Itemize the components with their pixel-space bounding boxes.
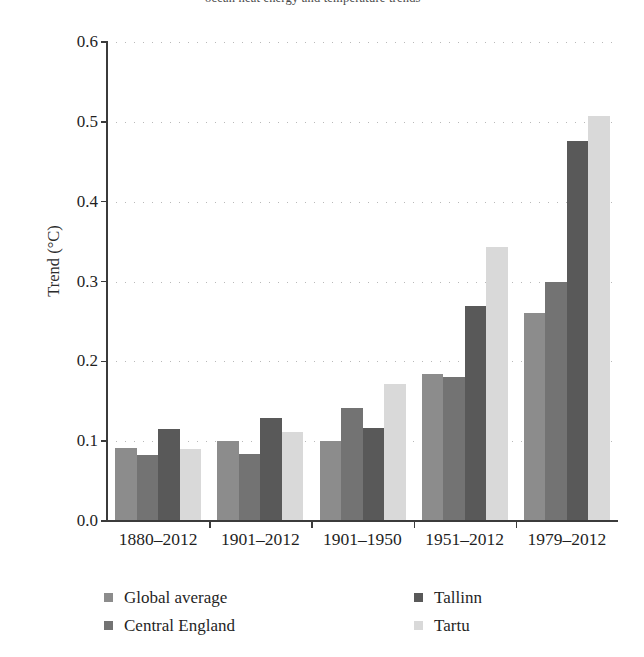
- bar-chart-figure: Trend (°C) 0.00.10.20.30.40.50.6 1880–20…: [0, 0, 644, 657]
- legend-item-global-average[interactable]: Global average: [104, 589, 227, 606]
- bar-tartu-1901–1950: [384, 384, 406, 521]
- bar-tallinn-1901–1950: [363, 428, 385, 521]
- legend-item-central-england[interactable]: Central England: [104, 617, 235, 634]
- legend-label: Tartu: [434, 617, 470, 634]
- bar-tallinn-1951–2012: [465, 306, 487, 521]
- y-axis-title: Trend (°C): [44, 161, 64, 361]
- y-tick-label: 0.1: [77, 431, 98, 451]
- bar-central-england-1880–2012: [137, 455, 159, 521]
- bar-global-average-1880–2012: [115, 448, 137, 521]
- legend-swatch-icon: [414, 621, 423, 630]
- legend-swatch-icon: [104, 621, 113, 630]
- bar-tartu-1979–2012: [588, 116, 610, 521]
- legend-item-tartu[interactable]: Tartu: [414, 617, 470, 634]
- legend-label: Tallinn: [434, 589, 482, 606]
- x-axis-label-1951–2012: 1951–2012: [414, 529, 516, 550]
- bars-layer: [107, 42, 618, 521]
- bar-global-average-1951–2012: [422, 374, 444, 521]
- x-axis-label-1901–1950: 1901–1950: [311, 529, 413, 550]
- y-tick-label: 0.2: [77, 351, 98, 371]
- chart-legend: Global averageCentral EnglandTallinnTart…: [104, 589, 534, 645]
- x-tick-mark: [209, 521, 210, 528]
- legend-item-tallinn[interactable]: Tallinn: [414, 589, 482, 606]
- y-tick-label: 0.4: [77, 192, 98, 212]
- bar-global-average-1901–1950: [320, 441, 342, 521]
- bar-central-england-1979–2012: [545, 282, 567, 521]
- x-axis-label-1901–2012: 1901–2012: [209, 529, 311, 550]
- x-axis-line: [106, 520, 618, 522]
- legend-swatch-icon: [104, 593, 113, 602]
- bar-central-england-1901–1950: [341, 408, 363, 521]
- bar-tallinn-1880–2012: [158, 429, 180, 521]
- x-tick-mark: [414, 521, 415, 528]
- legend-label: Central England: [124, 617, 235, 634]
- x-tick-mark: [516, 521, 517, 528]
- plot-area: 0.00.10.20.30.40.50.6: [107, 42, 618, 521]
- x-tick-mark: [311, 521, 312, 528]
- bar-global-average-1979–2012: [524, 313, 546, 521]
- x-axis-label-1880–2012: 1880–2012: [107, 529, 209, 550]
- bar-tallinn-1979–2012: [567, 141, 589, 521]
- bar-tartu-1951–2012: [486, 247, 508, 521]
- y-tick-label: 0.6: [77, 32, 98, 52]
- bar-tallinn-1901–2012: [260, 418, 282, 521]
- bar-central-england-1901–2012: [239, 454, 261, 521]
- legend-swatch-icon: [414, 593, 423, 602]
- bar-tartu-1880–2012: [180, 449, 202, 521]
- y-tick-label: 0.5: [77, 112, 98, 132]
- bar-tartu-1901–2012: [282, 432, 304, 521]
- y-tick-label: 0.0: [77, 511, 98, 531]
- x-axis-category-labels: 1880–20121901–20121901–19501951–20121979…: [107, 529, 618, 557]
- x-axis-label-1979–2012: 1979–2012: [516, 529, 618, 550]
- y-axis-line: [106, 41, 108, 522]
- y-tick-label: 0.3: [77, 272, 98, 292]
- legend-label: Global average: [124, 589, 227, 606]
- bar-global-average-1901–2012: [217, 441, 239, 521]
- bar-central-england-1951–2012: [443, 377, 465, 521]
